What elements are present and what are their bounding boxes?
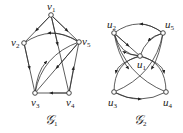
label-v5: v5: [82, 35, 91, 49]
vertex-v2: [22, 41, 27, 46]
label-v4: v4: [66, 96, 75, 110]
label-v1: v1: [47, 0, 56, 14]
arrow-v3-v5: [35, 62, 46, 93]
label-u4: u4: [163, 96, 173, 110]
label-u3: u3: [108, 96, 118, 110]
graph-title-g2: 𝒢2: [134, 112, 147, 128]
label-v3: v3: [31, 96, 40, 110]
graph-g1: v1 v2 v5 v3 v4 𝒢1: [11, 0, 91, 128]
vertex-v4: [67, 91, 72, 96]
edge-u5-u1: [140, 33, 163, 56]
arrow-v1-v4: [51, 15, 58, 44]
label-u2: u2: [107, 18, 117, 32]
arrow-v1-v5: [51, 15, 67, 31]
vertex-v5: [77, 40, 82, 45]
arrow-v1-v2: [37, 15, 52, 30]
graph-title-g1: 𝒢1: [45, 112, 58, 128]
vertex-u5: [161, 31, 166, 36]
label-u5: u5: [165, 18, 175, 32]
label-v2: v2: [11, 36, 20, 50]
vertex-u4: [164, 90, 169, 95]
vertex-u3: [112, 90, 117, 95]
arrow-v2-v3: [24, 43, 30, 68]
diagram-canvas: v1 v2 v5 v3 v4 𝒢1: [0, 0, 183, 133]
vertex-v3: [33, 91, 38, 96]
graph-g2: u2 u5 u1 u3 u4 𝒢2: [107, 18, 175, 128]
arrow-u3-u4: [114, 92, 140, 99]
label-u1: u1: [137, 58, 147, 72]
arrow-u5-u2: [141, 24, 163, 33]
arrow-v4-v5: [69, 68, 74, 93]
